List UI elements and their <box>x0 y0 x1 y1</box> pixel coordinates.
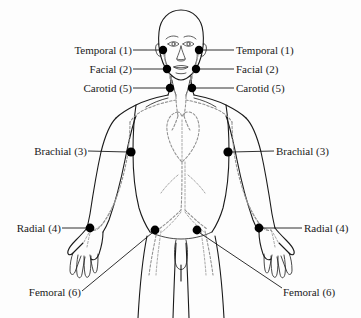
point-temporal-left <box>159 46 167 54</box>
body-outline <box>87 10 275 318</box>
point-carotid-right <box>188 84 196 92</box>
leader-femoral-left <box>82 233 152 291</box>
label-brachial-left: Brachial (3) <box>0 145 87 157</box>
point-brachial-right <box>223 147 232 156</box>
point-brachial-left <box>126 147 135 156</box>
point-facial-left <box>163 65 171 73</box>
leader-brachial-right <box>231 151 274 152</box>
label-temporal-right: Temporal (1) <box>236 44 294 56</box>
point-facial-right <box>192 65 200 73</box>
label-temporal-left: Temporal (1) <box>0 44 132 56</box>
point-femoral-left <box>151 226 160 235</box>
leader-femoral-right <box>200 233 282 288</box>
point-carotid-left <box>166 84 174 92</box>
point-radial-left <box>86 224 95 233</box>
label-carotid-left: Carotid (5) <box>0 82 132 94</box>
label-carotid-right: Carotid (5) <box>236 82 285 94</box>
label-femoral-left: Femoral (6) <box>0 286 81 298</box>
point-femoral-right <box>193 226 202 235</box>
right-hand <box>259 228 294 278</box>
left-hand <box>68 228 103 278</box>
label-brachial-right: Brachial (3) <box>276 145 329 157</box>
label-femoral-right: Femoral (6) <box>283 286 335 298</box>
label-radial-right: Radial (4) <box>304 222 348 234</box>
face-detail <box>146 36 216 107</box>
label-facial-left: Facial (2) <box>0 63 132 75</box>
label-radial-left: Radial (4) <box>0 222 61 234</box>
point-radial-right <box>255 224 264 233</box>
label-facial-right: Facial (2) <box>236 63 278 75</box>
pressure-points-diagram: .outline { fill: none; stroke: #1a1a1a; … <box>0 0 361 318</box>
point-temporal-right <box>195 46 203 54</box>
leader-brachial-left <box>88 151 128 152</box>
